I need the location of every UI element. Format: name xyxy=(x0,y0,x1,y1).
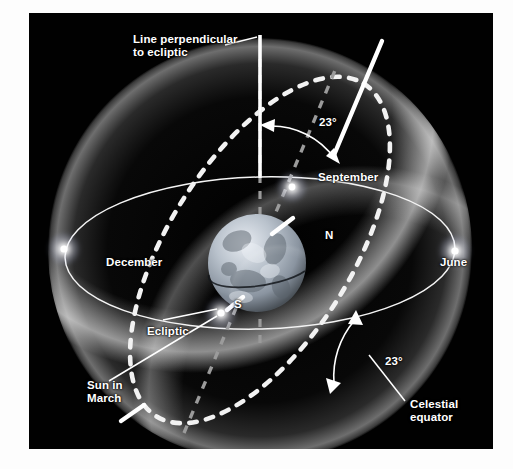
december-sun-marker xyxy=(47,232,81,266)
september-sun-marker xyxy=(276,171,308,203)
march-sun-marker xyxy=(204,296,238,330)
label-north-pole: N xyxy=(325,229,333,242)
label-angle-bottom-23-degrees: 23° xyxy=(385,355,403,368)
label-line-perpendicular-to-ecliptic: Line perpendicular to ecliptic xyxy=(133,33,238,59)
diagram-panel: Line perpendicular to ecliptic September… xyxy=(29,13,493,449)
celestial-sphere-figure: Line perpendicular to ecliptic September… xyxy=(0,0,513,469)
label-celestial-equator: Celestial equator xyxy=(410,398,458,424)
label-september: September xyxy=(318,171,378,184)
label-sun-in-march: Sun in March xyxy=(87,379,123,405)
label-june: June xyxy=(440,256,467,269)
label-south-pole: S xyxy=(234,298,242,311)
label-ecliptic: Ecliptic xyxy=(147,325,189,338)
label-angle-top-23-degrees: 23° xyxy=(319,116,337,129)
label-december: December xyxy=(106,256,162,269)
